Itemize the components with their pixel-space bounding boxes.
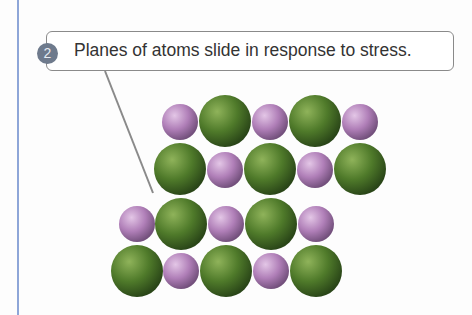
step-number-badge: 2 [37, 43, 58, 64]
small-atom [208, 206, 244, 242]
upper-atom-plane [154, 95, 386, 195]
small-atom [297, 152, 333, 188]
small-atom [162, 104, 198, 140]
large-atom [244, 143, 296, 195]
small-atom [252, 104, 288, 140]
large-atom [111, 245, 163, 297]
small-atom [342, 104, 378, 140]
large-atom [155, 198, 207, 250]
large-atom [199, 95, 251, 147]
small-atom [119, 206, 155, 242]
large-atom [154, 143, 206, 195]
lower-atom-plane [111, 198, 342, 297]
small-atom [207, 152, 243, 188]
small-atom [253, 253, 289, 289]
large-atom [334, 143, 386, 195]
small-atom [298, 206, 334, 242]
large-atom [290, 245, 342, 297]
small-atom [163, 253, 199, 289]
large-atom [289, 95, 341, 147]
callout-text: Planes of atoms slide in response to str… [74, 40, 412, 61]
callout-pointer [105, 71, 153, 193]
large-atom [200, 245, 252, 297]
large-atom [245, 198, 297, 250]
